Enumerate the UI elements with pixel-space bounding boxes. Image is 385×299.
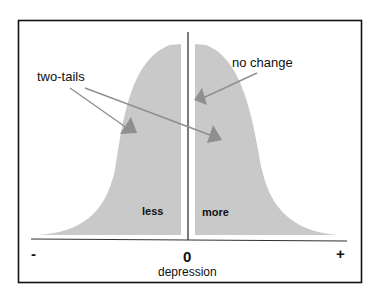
label-two-tails: two-tails (37, 69, 85, 84)
x-axis (31, 239, 347, 241)
tick-minus: - (31, 245, 36, 262)
frame (19, 21, 362, 283)
tick-zero: 0 (183, 248, 191, 265)
x-axis-label: depression (158, 265, 217, 279)
label-more: more (202, 206, 229, 218)
tick-plus: + (336, 245, 345, 262)
arrow-two-tails-left (70, 88, 127, 128)
normal-curve-diagram (0, 0, 385, 299)
label-no-change: no change (232, 55, 293, 70)
label-less: less (142, 205, 163, 217)
